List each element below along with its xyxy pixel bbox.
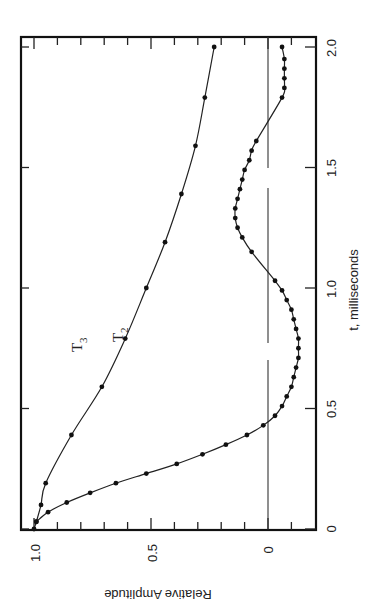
data-point-t3 — [39, 503, 44, 508]
series-label-t3-sub: 3 — [77, 337, 89, 343]
data-point-t2 — [240, 177, 245, 182]
data-point-t2 — [254, 139, 259, 144]
data-point-t2 — [280, 95, 285, 100]
data-point-t2 — [296, 355, 301, 360]
data-point-t2 — [64, 500, 69, 505]
data-point-t2 — [174, 462, 179, 467]
data-point-t2 — [280, 404, 285, 409]
data-point-t2 — [233, 206, 238, 211]
data-point-t3 — [32, 527, 37, 532]
data-point-t2 — [242, 168, 247, 173]
curves — [34, 47, 299, 529]
data-point-t2 — [273, 278, 278, 283]
chart: 1.0 0.5 0 Relative Amplitude 0 0.5 1.0 1… — [0, 0, 370, 604]
data-point-t2 — [247, 158, 252, 163]
data-point-t2 — [280, 45, 285, 50]
x-tick-label-0: 0 — [324, 525, 339, 532]
data-point-t2 — [291, 375, 296, 380]
data-point-t2 — [46, 510, 51, 515]
series-curve-t3 — [34, 47, 214, 529]
data-point-t2 — [291, 317, 296, 322]
y-tick-label-0.5: 0.5 — [145, 544, 160, 562]
series-label-t2-text: T — [110, 333, 126, 342]
data-point-t2 — [238, 187, 243, 192]
data-point-t2 — [249, 148, 254, 153]
x-tick-label-0.5: 0.5 — [324, 400, 339, 418]
data-point-t2 — [235, 225, 240, 230]
x-tick-label-1.0: 1.0 — [324, 280, 339, 298]
data-point-t2 — [88, 490, 93, 495]
data-point-t2 — [240, 235, 245, 240]
data-markers — [32, 45, 301, 532]
data-point-t2 — [280, 288, 285, 293]
data-point-t2 — [233, 216, 238, 221]
data-point-t3 — [43, 481, 48, 486]
data-point-t2 — [223, 442, 228, 447]
plot-frame — [21, 37, 316, 530]
data-point-t3 — [179, 192, 184, 197]
data-point-t2 — [282, 76, 287, 81]
data-point-t2 — [144, 471, 149, 476]
data-point-t3 — [144, 286, 149, 291]
data-point-t2 — [294, 327, 299, 332]
data-point-t2 — [114, 481, 119, 486]
series-label-t3: T 3 — [69, 337, 89, 352]
series-label-t2-sub: 2 — [118, 328, 130, 334]
y-tick-label-1.0: 1.0 — [28, 544, 43, 562]
data-point-t2 — [294, 365, 299, 370]
data-point-t3 — [193, 143, 198, 148]
x-tick-label-2.0: 2.0 — [324, 39, 339, 57]
data-point-t2 — [249, 249, 254, 254]
data-point-t3 — [99, 384, 104, 389]
y-axis-title: Relative Amplitude — [104, 587, 212, 602]
data-point-t2 — [200, 452, 205, 457]
data-point-t2 — [284, 298, 289, 303]
data-point-t2 — [296, 346, 301, 351]
data-point-t2 — [296, 336, 301, 341]
data-point-t2 — [289, 384, 294, 389]
data-point-t2 — [282, 66, 287, 71]
data-point-t3 — [163, 240, 168, 245]
data-point-t2 — [282, 86, 287, 91]
series-curve-t2 — [36, 47, 298, 522]
x-axis-title: t, milliseconds — [346, 249, 361, 331]
axis-ticks — [21, 37, 316, 530]
y-tick-label-0: 0 — [261, 546, 276, 553]
data-point-t3 — [69, 433, 74, 438]
x-tick-label-1.5: 1.5 — [324, 159, 339, 177]
data-point-t2 — [282, 57, 287, 62]
data-point-t3 — [202, 95, 207, 100]
data-point-t2 — [245, 433, 250, 438]
data-point-t2 — [261, 423, 266, 428]
data-point-t2 — [289, 307, 294, 312]
data-point-t2 — [34, 519, 39, 524]
series-label-t3-text: T — [69, 343, 85, 352]
data-point-t2 — [235, 196, 240, 201]
data-point-t3 — [212, 45, 217, 50]
data-point-t2 — [273, 413, 278, 418]
data-point-t2 — [284, 394, 289, 399]
